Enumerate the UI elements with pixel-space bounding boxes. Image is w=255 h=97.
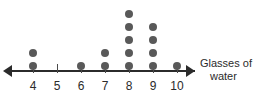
data-dot (149, 49, 157, 57)
data-dot (125, 36, 133, 44)
x-axis-tick-label: 7 (93, 79, 117, 93)
data-dot (125, 23, 133, 31)
data-dot (125, 10, 133, 18)
data-dot (29, 62, 37, 70)
dot-plot-chart: 45678910 Glasses of water (0, 0, 255, 97)
data-dot (149, 36, 157, 44)
data-dot (101, 49, 109, 57)
data-dot (149, 62, 157, 70)
x-axis-tick-label: 10 (165, 79, 189, 93)
x-axis-tick-label: 6 (69, 79, 93, 93)
data-dot (173, 62, 181, 70)
x-axis-tick-label: 8 (117, 79, 141, 93)
data-dot (29, 49, 37, 57)
axis-arrow-right-icon (186, 65, 195, 77)
x-axis-line (10, 70, 195, 72)
data-dot (125, 62, 133, 70)
data-dot (77, 62, 85, 70)
x-axis-tick-label: 9 (141, 79, 165, 93)
data-dot (101, 62, 109, 70)
x-axis-label-line1: Glasses of (200, 57, 252, 69)
data-dot (125, 49, 133, 57)
data-dot (149, 23, 157, 31)
x-axis-label: Glasses of water (200, 57, 255, 83)
axis-arrow-left-icon (3, 65, 12, 77)
x-axis-tick-label: 5 (45, 79, 69, 93)
x-axis-label-line2: water (200, 70, 255, 83)
x-axis-tick (57, 64, 58, 73)
x-axis-tick-label: 4 (21, 79, 45, 93)
